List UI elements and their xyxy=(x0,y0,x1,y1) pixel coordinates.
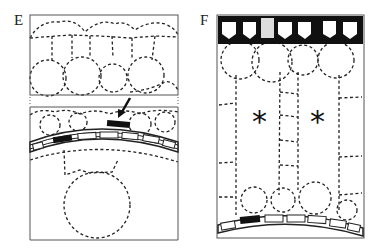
panel-f-cells xyxy=(219,41,362,220)
asterisk-left: * xyxy=(252,104,267,139)
panel-e-arrow xyxy=(118,98,130,118)
panel-f-cell-wall-band xyxy=(218,215,363,236)
asterisk-right: * xyxy=(310,104,325,139)
panel-e-cell-wall-band xyxy=(30,129,178,152)
panel-f-frame xyxy=(217,15,364,238)
panel-e-dark-bar xyxy=(107,120,130,128)
panel-f-epidermis xyxy=(218,16,363,44)
panel-e-upper-tissue xyxy=(30,21,178,96)
